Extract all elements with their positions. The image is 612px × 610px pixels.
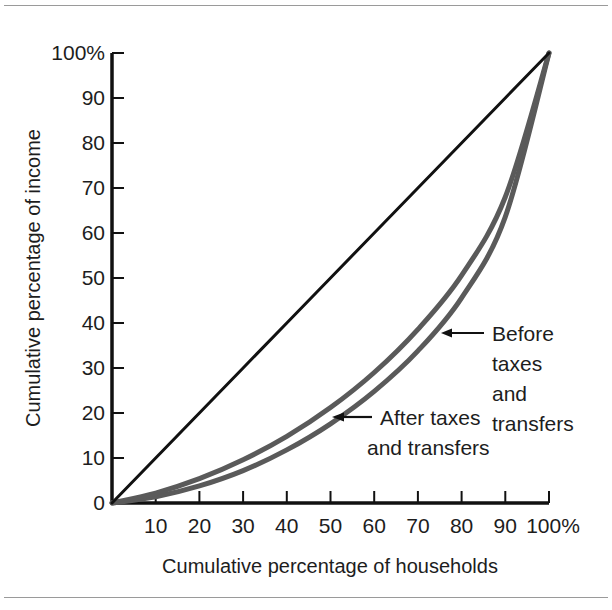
x-tick-label: 100%	[526, 514, 580, 537]
y-axis-ticks	[112, 53, 124, 503]
y-tick-label: 20	[82, 401, 105, 424]
after-annotation-line-2: and transfers	[367, 436, 490, 459]
x-tick-label: 20	[188, 514, 211, 537]
before-annotation-line-3: and	[492, 382, 527, 405]
y-tick-label: 30	[82, 356, 105, 379]
y-tick-label: 80	[82, 131, 105, 154]
y-axis-tick-labels: 0 10 20 30 40 50 60 70 80 90 100%	[51, 41, 105, 514]
y-tick-label: 100%	[51, 41, 105, 64]
y-tick-label: 40	[82, 311, 105, 334]
x-tick-label: 50	[319, 514, 342, 537]
lorenz-curve-chart: 0 10 20 30 40 50 60 70 80 90 100% 10 20 …	[0, 0, 612, 610]
before-annotation-line-2: taxes	[492, 352, 542, 375]
y-tick-label: 60	[82, 221, 105, 244]
x-tick-label: 30	[231, 514, 254, 537]
y-axis-title: Cumulative percentage of income	[22, 129, 44, 427]
y-tick-label: 10	[82, 446, 105, 469]
x-tick-label: 40	[275, 514, 298, 537]
before-annotation-line-4: transfers	[492, 412, 574, 435]
x-axis-tick-labels: 10 20 30 40 50 60 70 80 90 100%	[144, 514, 580, 537]
x-tick-label: 60	[363, 514, 386, 537]
y-tick-label: 90	[82, 86, 105, 109]
y-tick-label: 0	[93, 491, 105, 514]
y-tick-label: 70	[82, 176, 105, 199]
after-annotation-line-1: After taxes	[380, 406, 480, 429]
figure-container: 0 10 20 30 40 50 60 70 80 90 100% 10 20 …	[0, 0, 612, 610]
y-tick-label: 50	[82, 266, 105, 289]
x-tick-label: 70	[406, 514, 429, 537]
x-tick-label: 10	[144, 514, 167, 537]
after-annotation: After taxes and transfers	[332, 406, 490, 459]
x-axis-title: Cumulative percentage of households	[162, 555, 498, 577]
x-tick-label: 90	[494, 514, 517, 537]
x-tick-label: 80	[450, 514, 473, 537]
before-annotation-line-1: Before	[492, 322, 554, 345]
